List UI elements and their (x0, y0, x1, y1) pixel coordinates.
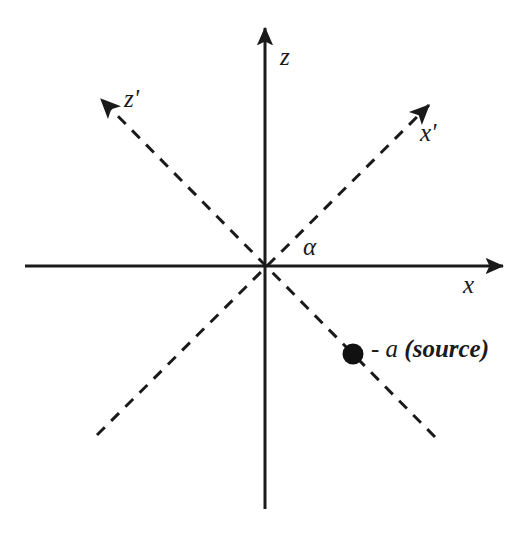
source-label-word: (source) (404, 335, 489, 362)
angle-label-alpha: α (303, 234, 316, 259)
axis-label-z: z (280, 44, 290, 69)
axes-diagram (0, 0, 530, 535)
axis-label-x-prime: x' (420, 120, 436, 145)
figure-canvas: z z' x' α x - a (source) (0, 0, 530, 535)
axis-label-x: x (463, 272, 474, 297)
axis-label-z-prime: z' (124, 86, 139, 111)
source-point-label: - a (source) (371, 336, 489, 361)
source-point-marker (343, 344, 364, 365)
source-label-value: - a (371, 335, 398, 362)
axis-x-prime-line (97, 105, 429, 435)
